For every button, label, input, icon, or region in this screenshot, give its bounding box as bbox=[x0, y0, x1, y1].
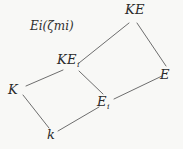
lattice-diagram: KE KEi K E Ei k Ei(ζmi) bbox=[0, 0, 183, 149]
node-label-k-upper: K bbox=[8, 83, 18, 96]
node-label-k-lower: k bbox=[47, 128, 55, 141]
node-label-ke: KE bbox=[125, 3, 145, 16]
subscript-i: i bbox=[77, 60, 80, 69]
annotation-label-ei-zeta-mi: Ei(ζmi) bbox=[30, 20, 74, 32]
edge-k-Ei bbox=[58, 107, 99, 131]
node-label-e: E bbox=[160, 68, 170, 81]
edge-E-Ei bbox=[114, 76, 162, 99]
edge-K-KEi bbox=[26, 70, 63, 86]
edge-KEi-KE bbox=[79, 23, 129, 63]
annotation-close-paren: ) bbox=[69, 19, 74, 33]
annotation-zeta-subscript: mi bbox=[54, 19, 69, 33]
lattice-edges-canvas bbox=[0, 0, 183, 149]
subscript-i: i bbox=[107, 102, 110, 111]
edge-KEi-Ei bbox=[79, 71, 103, 94]
annotation-base: E bbox=[30, 19, 39, 33]
edge-K-k bbox=[23, 95, 49, 128]
node-label-ei: Ei bbox=[97, 95, 109, 108]
edge-KE-E bbox=[137, 23, 166, 66]
node-label-kei: KEi bbox=[57, 53, 79, 66]
